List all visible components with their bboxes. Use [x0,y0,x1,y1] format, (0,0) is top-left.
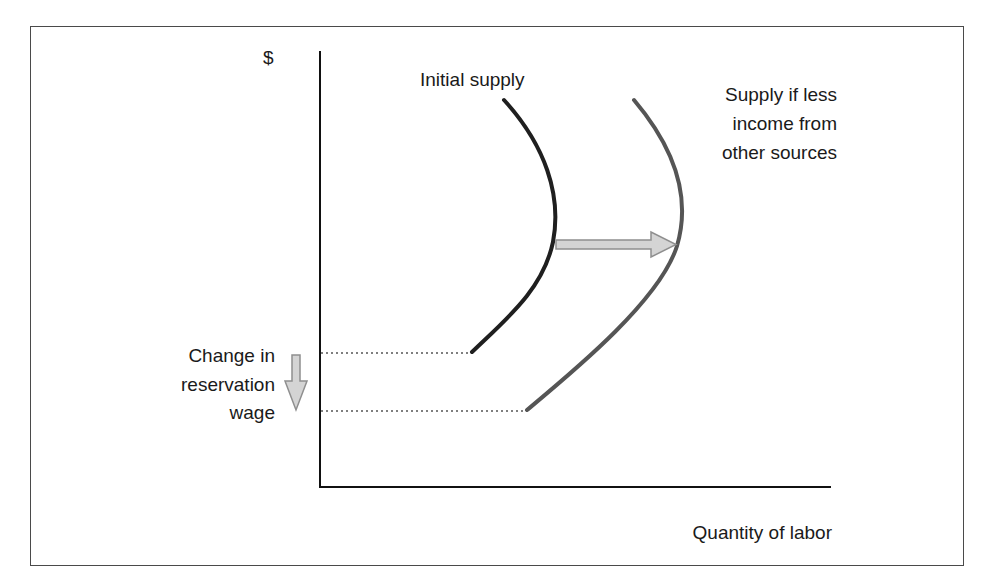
reservation-wage-change-label: Change in reservation wage [181,342,275,428]
initial-supply-label: Initial supply [420,66,525,94]
y-axis-label: $ [263,44,274,72]
shifted-supply-label-line: income from [722,109,837,138]
shifted-supply-label-line: Supply if less [722,80,837,109]
reservation-wage-label-line: wage [181,399,275,428]
x-axis-label: Quantity of labor [693,519,832,547]
reservation-wage-label-line: reservation [181,371,275,400]
initial-supply-curve [472,100,555,352]
reservation-wage-label-line: Change in [181,342,275,371]
shifted-supply-label: Supply if less income from other sources [722,80,837,167]
down-arrow-icon [285,355,307,410]
shifted-supply-label-line: other sources [722,138,837,167]
right-arrow-icon [556,232,676,257]
